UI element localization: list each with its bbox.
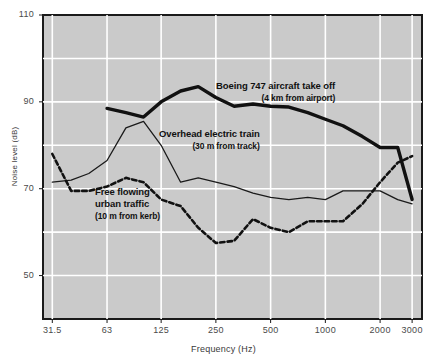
- x-axis-title: Frequency (Hz): [0, 344, 447, 354]
- noise-level-frequency-chart: 507090110 31.563125250500100020003000 No…: [0, 0, 447, 363]
- y-tick-label-70: 70: [4, 183, 34, 193]
- annotation-boeing-747: Boeing 747 aircraft take off (4 km from …: [216, 80, 335, 104]
- y-axis-title: Noise level (dB): [10, 107, 19, 207]
- annotation-boeing-sublabel: (4 km from airport): [216, 92, 335, 104]
- annotation-traffic-label2: urban traffic: [95, 198, 160, 210]
- x-tick-label-63: 63: [84, 325, 130, 335]
- annotation-traffic-sublabel: (10 m from kerb): [95, 210, 160, 222]
- annotation-urban-traffic: Free flowing urban traffic (10 m from ke…: [95, 186, 160, 222]
- annotation-electric-train: Overhead electric train (30 m from track…: [159, 128, 260, 152]
- y-tick-label-90: 90: [4, 96, 34, 106]
- chart-svg-layer: [0, 0, 447, 363]
- annotation-boeing-label: Boeing 747 aircraft take off: [216, 80, 335, 91]
- x-tick-label-1000: 1000: [302, 325, 348, 335]
- annotation-traffic-label: Free flowing: [95, 186, 150, 197]
- x-tick-label-250: 250: [193, 325, 239, 335]
- annotation-train-sublabel: (30 m from track): [159, 140, 260, 152]
- x-tick-label-500: 500: [248, 325, 294, 335]
- x-tick-label-3000: 3000: [389, 325, 435, 335]
- vertical-gridlines: [52, 15, 412, 319]
- x-tick-label-125: 125: [138, 325, 184, 335]
- y-tick-label-110: 110: [4, 9, 34, 19]
- x-tick-label-31-5: 31.5: [29, 325, 75, 335]
- annotation-train-label: Overhead electric train: [159, 128, 260, 139]
- y-tick-label-50: 50: [4, 270, 34, 280]
